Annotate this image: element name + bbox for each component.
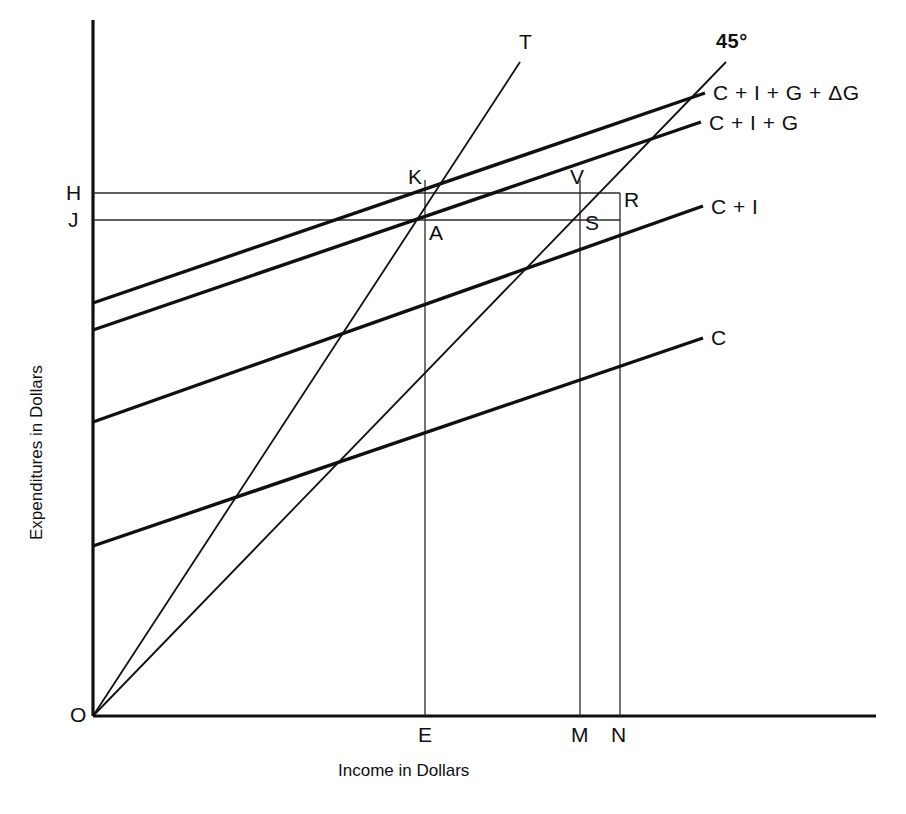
- point-label-m: M: [571, 724, 589, 745]
- tax-schedule-line: [93, 62, 520, 716]
- curve-label-c-i-g: C + I + G: [709, 112, 799, 133]
- point-label-e: E: [418, 724, 432, 745]
- schedule-c-i-g-line: [93, 122, 701, 330]
- point-label-v: V: [570, 166, 584, 187]
- schedule-c-i-line: [93, 206, 703, 422]
- curve-label-c-i-g-dg: C + I + G + ΔG: [713, 82, 860, 103]
- curve-label-c: C: [711, 327, 727, 348]
- curve-label-tax-schedule: T: [519, 31, 532, 52]
- point-label-s: S: [585, 212, 599, 233]
- schedule-c-line: [93, 338, 703, 546]
- point-label-r: R: [624, 189, 639, 210]
- y-axis-title: Expenditures in Dollars: [28, 365, 45, 540]
- point-label-j: J: [68, 209, 79, 230]
- x-axis-title: Income in Dollars: [338, 762, 469, 779]
- expenditure-schedules: [93, 93, 705, 546]
- origin-label: O: [70, 704, 86, 725]
- point-label-k: K: [408, 166, 422, 187]
- keynesian-cross-figure: C + I + G + ΔG C + I + G C + I C 45° T H…: [0, 0, 906, 814]
- point-label-h: H: [66, 182, 81, 203]
- schedule-c-i-g-dg-line: [93, 93, 705, 303]
- curve-label-forty-five-degree: 45°: [716, 31, 748, 51]
- curve-label-c-i: C + I: [711, 196, 758, 217]
- point-label-n: N: [611, 724, 626, 745]
- point-label-a: A: [429, 222, 443, 243]
